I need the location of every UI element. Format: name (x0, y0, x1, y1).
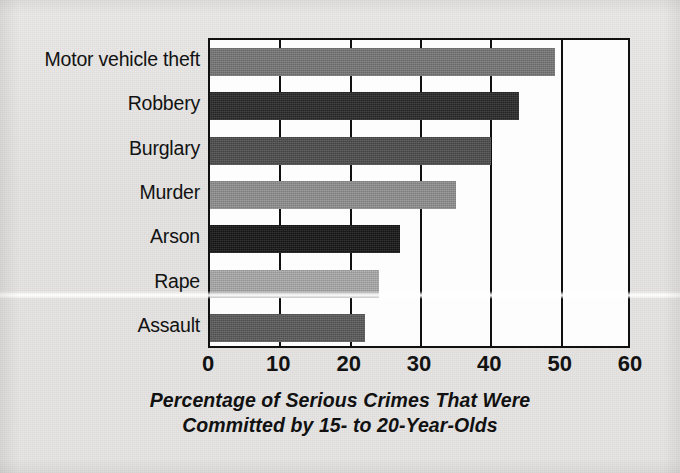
bar-burglary (210, 137, 491, 165)
category-label-burglary: Burglary (129, 139, 200, 159)
x-tick-40: 40 (469, 353, 509, 375)
category-label-rape: Rape (154, 272, 200, 292)
bar-robbery (210, 92, 519, 120)
category-label-arson: Arson (150, 227, 200, 247)
x-tick-60: 60 (610, 353, 650, 375)
bar-arson (210, 225, 400, 253)
axis-title-line-2: Committed by 15- to 20-Year-Olds (0, 413, 680, 438)
bar-murder (210, 181, 456, 209)
gridline-40 (490, 40, 492, 346)
x-tick-0: 0 (188, 353, 228, 375)
category-label-assault: Assault (137, 316, 200, 336)
bar-rape (210, 270, 379, 298)
axis-title-line-1: Percentage of Serious Crimes That Were (0, 388, 680, 413)
bar-motor-vehicle-theft (210, 48, 555, 76)
x-tick-10: 10 (258, 353, 298, 375)
gridline-50 (561, 40, 563, 346)
bar-assault (210, 314, 365, 342)
category-label-robbery: Robbery (128, 94, 200, 114)
x-tick-50: 50 (540, 353, 580, 375)
category-label-murder: Murder (139, 183, 200, 203)
category-label-motor-vehicle-theft: Motor vehicle theft (44, 50, 200, 70)
x-axis-title: Percentage of Serious Crimes That Were C… (0, 388, 680, 438)
x-tick-30: 30 (399, 353, 439, 375)
plot-area (208, 38, 630, 348)
x-tick-20: 20 (329, 353, 369, 375)
bar-chart: Motor vehicle theftRobberyBurglaryMurder… (0, 0, 680, 473)
